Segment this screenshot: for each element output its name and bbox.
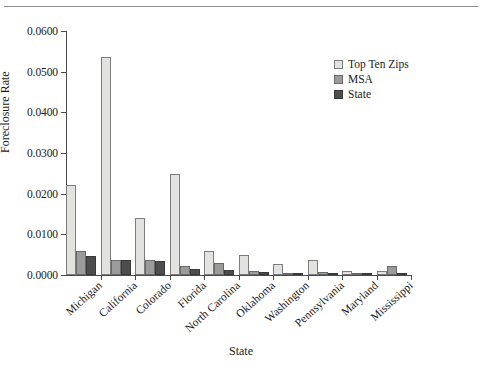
x-tick-mark bbox=[204, 275, 205, 280]
bar-group bbox=[239, 31, 269, 275]
x-tick-mark bbox=[239, 275, 240, 280]
bar-group bbox=[101, 31, 131, 275]
bar bbox=[101, 57, 111, 275]
bar bbox=[328, 273, 338, 275]
bar bbox=[342, 271, 352, 275]
bar bbox=[135, 218, 145, 275]
bar bbox=[170, 174, 180, 275]
bar bbox=[76, 251, 86, 275]
legend-item: Top Ten Zips bbox=[334, 57, 409, 71]
bar-group bbox=[135, 31, 165, 275]
bar bbox=[145, 260, 155, 275]
bar-group bbox=[273, 31, 303, 275]
chart-figure: Foreclosure Rate 0.00000.01000.02000.030… bbox=[0, 0, 482, 366]
bar bbox=[318, 272, 328, 275]
bar-group bbox=[170, 31, 200, 275]
bar bbox=[387, 266, 397, 275]
legend-swatch bbox=[334, 90, 343, 99]
legend-swatch bbox=[334, 60, 343, 69]
bar bbox=[190, 269, 200, 275]
y-tick-label: 0.0500 bbox=[27, 66, 58, 78]
bar bbox=[224, 270, 234, 275]
x-tick-mark bbox=[101, 275, 102, 280]
x-tick-mark bbox=[273, 275, 274, 280]
bar bbox=[155, 261, 165, 275]
bar bbox=[259, 272, 269, 275]
x-tick-label: California bbox=[96, 279, 139, 319]
legend-label: Top Ten Zips bbox=[348, 58, 409, 70]
bar bbox=[293, 273, 303, 275]
x-axis-title: State bbox=[0, 344, 482, 359]
bar bbox=[239, 255, 249, 275]
y-tick-label: 0.0600 bbox=[27, 25, 58, 37]
bar bbox=[86, 256, 96, 275]
bar bbox=[362, 273, 372, 275]
x-tick-mark bbox=[342, 275, 343, 280]
x-tick-mark bbox=[377, 275, 378, 280]
legend-item: MSA bbox=[334, 72, 409, 86]
legend-label: MSA bbox=[348, 73, 373, 85]
x-tick-mark bbox=[308, 275, 309, 280]
y-axis-title: Foreclosure Rate bbox=[0, 71, 13, 153]
bar bbox=[397, 273, 407, 275]
legend-swatch bbox=[334, 75, 343, 84]
y-tick-label: 0.0000 bbox=[27, 269, 58, 281]
x-tick-mark bbox=[411, 275, 412, 280]
bar bbox=[273, 264, 283, 275]
y-tick-label: 0.0400 bbox=[27, 106, 58, 118]
y-tick-label: 0.0200 bbox=[27, 188, 58, 200]
legend-item: State bbox=[334, 87, 409, 101]
bar bbox=[308, 260, 318, 275]
bar bbox=[377, 271, 387, 275]
bar bbox=[121, 260, 131, 275]
bar bbox=[66, 185, 76, 275]
chart-legend: Top Ten ZipsMSAState bbox=[334, 57, 409, 102]
y-tick-label: 0.0100 bbox=[27, 228, 58, 240]
bar bbox=[249, 271, 259, 275]
bar bbox=[214, 263, 224, 275]
x-tick-label: Colorado bbox=[133, 279, 173, 317]
header-divider bbox=[4, 6, 478, 7]
bar bbox=[180, 266, 190, 275]
x-tick-mark bbox=[170, 275, 171, 280]
legend-label: State bbox=[348, 88, 371, 100]
bar-group bbox=[66, 31, 96, 275]
y-tick-label: 0.0300 bbox=[27, 147, 58, 159]
bar bbox=[111, 260, 121, 275]
x-tick-mark bbox=[135, 275, 136, 280]
bar bbox=[204, 251, 214, 275]
bar bbox=[283, 273, 293, 275]
y-tick-mark bbox=[61, 275, 66, 276]
bar-group bbox=[204, 31, 234, 275]
bar bbox=[352, 273, 362, 275]
